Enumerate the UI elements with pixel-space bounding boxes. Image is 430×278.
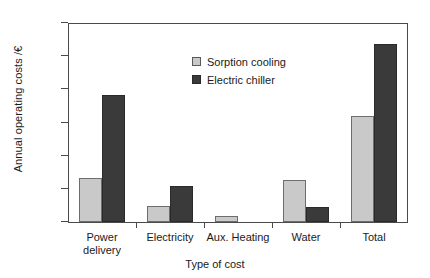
bar [351,116,374,222]
x-tick-mark [136,222,137,228]
bar [147,206,170,222]
bar [215,216,238,222]
x-axis-title: Type of cost [0,258,430,270]
legend-item-electric-chiller: Electric chiller [192,72,286,87]
category-label: Total [324,231,424,244]
y-tick-mark [61,88,68,89]
bar [102,95,125,222]
bar [306,207,329,222]
x-tick-mark [204,222,205,228]
y-tick-mark [61,188,68,189]
legend-item-sorption-cooling: Sorption cooling [192,54,286,69]
legend: Sorption cooling Electric chiller [192,54,286,90]
y-tick-mark [61,22,68,23]
legend-label: Electric chiller [207,74,275,86]
legend-label: Sorption cooling [207,56,286,68]
bar [170,186,193,222]
y-axis-title: Annual operating costs /€ [12,14,24,204]
y-tick-mark [61,155,68,156]
bar [283,180,306,222]
bar [374,44,397,222]
y-tick-mark [61,221,68,222]
bar [79,178,102,222]
x-tick-mark [340,222,341,228]
legend-swatch-icon [192,57,201,66]
y-tick-mark [61,55,68,56]
x-tick-mark [272,222,273,228]
x-axis-line [68,222,408,223]
legend-swatch-icon [192,75,201,84]
y-tick-mark [61,122,68,123]
bar-chart: Annual operating costs /€ 01000200030004… [0,0,430,278]
